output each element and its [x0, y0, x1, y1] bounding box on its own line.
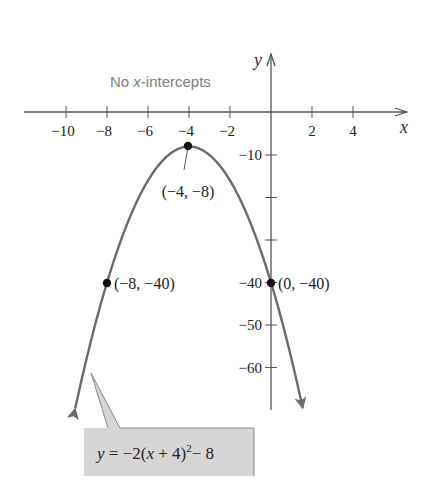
y-intercept-point	[267, 279, 275, 287]
x-ticks: −10−8−6−4−224	[51, 106, 357, 139]
vertex-point	[184, 142, 192, 150]
x-tick-label: −2	[219, 123, 235, 139]
x-tick-label: −4	[178, 123, 194, 139]
x-tick-label: 2	[308, 123, 316, 139]
equation-label: y = −2(x + 4)2− 8	[95, 442, 214, 463]
x-tick-label: −6	[137, 123, 153, 139]
x-tick-label: 4	[349, 123, 357, 139]
parabola-graph: −10−8−6−4−224 −10−40−50−60 x y No x-inte…	[0, 0, 429, 493]
x-tick-label: −10	[51, 123, 74, 139]
y-intercept-label: (0, −40)	[278, 275, 330, 293]
vertex-label: (−4, −8)	[162, 183, 215, 201]
point-neg8-neg40	[103, 279, 111, 287]
y-tick-label: −60	[239, 360, 262, 376]
x-axis-label: x	[399, 117, 408, 137]
point-neg8-neg40-label: (−8, −40)	[114, 275, 175, 293]
vertex-leader-line	[184, 147, 188, 170]
no-x-intercepts-note: No x-intercepts	[110, 73, 211, 90]
y-tick-label: −50	[239, 317, 262, 333]
y-axis-label: y	[252, 50, 262, 70]
y-tick-label: −10	[239, 147, 262, 163]
x-tick-label: −8	[96, 123, 112, 139]
y-tick-label: −40	[239, 275, 262, 291]
